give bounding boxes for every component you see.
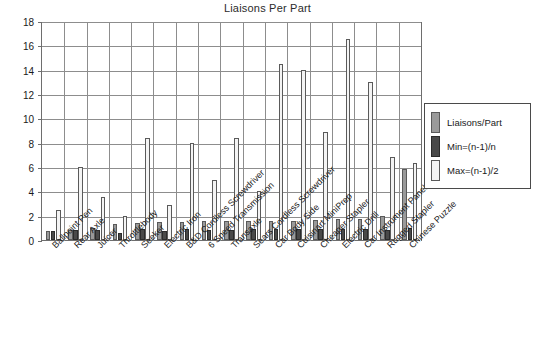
- legend-item: Max=(n-1)/2: [431, 158, 525, 182]
- y-tick-label: 8: [0, 138, 34, 149]
- gridline: [42, 192, 421, 193]
- y-tick-label: 14: [0, 65, 34, 76]
- y-tick-label: 12: [0, 90, 34, 101]
- legend-swatch-max: [431, 160, 440, 181]
- y-tick-mark: [38, 217, 42, 218]
- x-axis-labels: Ballpoint PenRear AxleJuicerThrottlebody…: [0, 241, 535, 347]
- y-tick-mark: [38, 71, 42, 72]
- gridline: [42, 46, 421, 47]
- y-tick-mark: [38, 144, 42, 145]
- gridline: [42, 119, 421, 120]
- legend-swatch-liaisons-per-part: [431, 112, 440, 133]
- y-tick-label: 10: [0, 114, 34, 125]
- legend-item: Min=(n-1)/n: [431, 134, 525, 158]
- gridline: [42, 95, 421, 96]
- y-tick-mark: [38, 95, 42, 96]
- category-separator: [376, 22, 377, 241]
- category-separator: [64, 22, 65, 241]
- category-separator: [176, 22, 177, 241]
- y-tick-label: 16: [0, 41, 34, 52]
- legend-item: Liaisons/Part: [431, 110, 525, 134]
- y-tick-mark: [38, 22, 42, 23]
- gridline: [42, 168, 421, 169]
- category-separator: [109, 22, 110, 241]
- gridline: [42, 71, 421, 72]
- y-tick-label: 6: [0, 163, 34, 174]
- legend-label: Liaisons/Part: [447, 117, 502, 128]
- category-separator: [198, 22, 199, 241]
- y-tick-label: 2: [0, 211, 34, 222]
- y-tick-label: 18: [0, 17, 34, 28]
- legend-label: Max=(n-1)/2: [447, 165, 498, 176]
- y-tick-mark: [38, 46, 42, 47]
- category-separator: [131, 22, 132, 241]
- y-tick-mark: [38, 168, 42, 169]
- legend-swatch-min: [431, 136, 440, 157]
- y-tick-mark: [38, 192, 42, 193]
- y-tick-mark: [38, 119, 42, 120]
- legend-label: Min=(n-1)/n: [447, 141, 496, 152]
- bar: [78, 167, 83, 240]
- chart-legend: Liaisons/Part Min=(n-1)/n Max=(n-1)/2: [424, 103, 531, 189]
- gridline: [42, 22, 421, 23]
- bar: [46, 231, 51, 240]
- gridline: [42, 144, 421, 145]
- chart-container: Liaisons Per Part 024681012141618 Ballpo…: [0, 0, 535, 347]
- y-tick-label: 4: [0, 187, 34, 198]
- category-separator: [265, 22, 266, 241]
- chart-title: Liaisons Per Part: [0, 2, 535, 14]
